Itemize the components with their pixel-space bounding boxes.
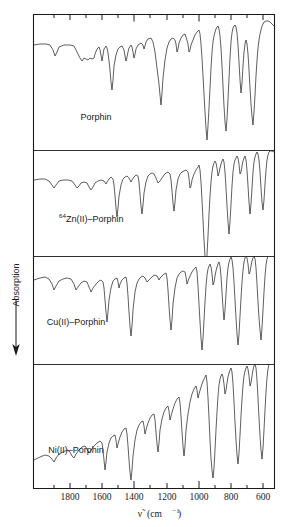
panel-label-ni-porphin: Ni(II)–Porphin [48,445,104,455]
panel-ni-porphin: Ni(II)–Porphin [34,358,274,480]
top-tick-marks [54,15,263,22]
x-axis-title: ν̃ (cm −1 ) [138,507,181,521]
panel-label-cu-porphin: Cu(II)–Porphin [47,317,106,327]
x-tick-label-1800: 1800 [61,492,80,502]
spectrum-trace-porphin [34,21,274,140]
x-axis-title-unit-close: ) [178,509,181,520]
panel-separators [34,151,275,365]
x-tick-label-1600: 1600 [93,492,112,502]
bottom-tick-marks [54,481,263,489]
panel-label-porphin: Porphin [80,112,111,122]
spectrum-trace-zn-porphin [34,151,274,268]
y-axis-label-group: Absorption [11,263,21,356]
ir-spectra-figure: Absorption [0,0,286,527]
x-tick-label-600: 600 [256,492,271,502]
x-tick-label-1200: 1200 [158,492,177,502]
x-tick-label-1400: 1400 [125,492,144,502]
panel-label-zn-porphin: Zn(II)–Porphin [66,214,124,224]
panel-cu-porphin: Cu(II)–Porphin [34,253,274,350]
x-axis-title-symbol: ν̃ [138,509,146,519]
down-arrow-icon [12,300,19,356]
x-axis-title-unit-open: (cm [147,509,162,520]
panel-zn-porphin: 64 Zn(II)–Porphin [34,151,274,268]
spectrum-trace-ni-porphin [34,358,274,480]
x-tick-label-1000: 1000 [190,492,209,502]
x-tick-label-800: 800 [224,492,239,502]
panel-porphin: Porphin [34,21,274,140]
x-axis-tick-labels: 1800 1600 1400 1200 1000 800 600 [61,492,271,502]
plot-frame [34,15,275,489]
spectrum-trace-cu-porphin [34,253,274,350]
spectra-plot-svg: Absorption [0,0,286,527]
